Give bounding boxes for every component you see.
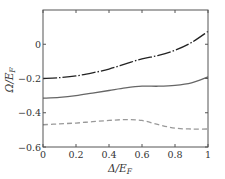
x-tick-label: 0.4 bbox=[101, 149, 116, 160]
x-tick-label: 1 bbox=[205, 149, 211, 160]
axis-ticks bbox=[43, 10, 208, 147]
series-line bbox=[43, 31, 208, 78]
x-tick-label: 0.2 bbox=[68, 149, 83, 160]
y-axis-label: Ω/EF bbox=[3, 67, 17, 94]
x-tick-labels: 00.20.40.60.81 bbox=[40, 149, 211, 160]
x-tick-label: 0.8 bbox=[167, 149, 182, 160]
chart: 00.20.40.60.81 −0.6−0.4−0.20 Δ/EF Ω/EF bbox=[0, 0, 225, 179]
series-line bbox=[43, 77, 208, 98]
x-axis-label: Δ/EF bbox=[107, 162, 133, 176]
data-series bbox=[43, 31, 208, 129]
y-tick-label: −0.2 bbox=[18, 73, 41, 84]
y-tick-label: 0 bbox=[35, 39, 41, 50]
series-line bbox=[43, 120, 208, 129]
plot-frame bbox=[43, 10, 208, 147]
x-tick-label: 0.6 bbox=[134, 149, 149, 160]
y-tick-label: −0.6 bbox=[18, 142, 41, 153]
y-tick-label: −0.4 bbox=[18, 107, 41, 118]
y-tick-labels: −0.6−0.4−0.20 bbox=[18, 39, 41, 153]
